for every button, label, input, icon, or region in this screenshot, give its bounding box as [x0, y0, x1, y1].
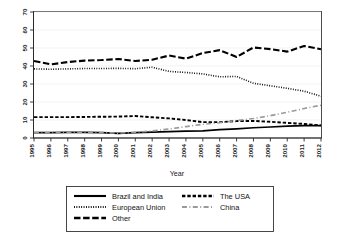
- x-tick-label: 2002: [146, 143, 153, 157]
- x-tick-label: 2008: [247, 143, 254, 157]
- x-tick-label: 2004: [180, 143, 187, 157]
- x-tick-label: 2000: [112, 143, 119, 157]
- y-tick-label: 10: [21, 116, 28, 123]
- x-tick-label: 2001: [129, 143, 136, 157]
- x-tick-label: 2005: [197, 143, 204, 157]
- legend-label: The USA: [220, 192, 250, 201]
- line-chart: 0 10 20 30 40 50 60 70 19951996199719981…: [0, 0, 340, 242]
- x-tick-label: 2010: [281, 143, 288, 157]
- x-tick-label: 2009: [264, 143, 271, 157]
- x-tick-label: 2003: [163, 143, 170, 157]
- legend-label: China: [220, 203, 240, 212]
- y-tick-label: 0: [21, 136, 28, 140]
- x-tick-label: 2007: [231, 143, 238, 157]
- legend-label: Other: [112, 214, 131, 223]
- y-tick-label: 70: [21, 8, 28, 15]
- x-tick-label: 1996: [45, 143, 52, 157]
- x-tick-label: 1999: [96, 143, 103, 157]
- x-tick-label: 2011: [298, 143, 305, 157]
- y-tick-label: 30: [21, 80, 28, 87]
- y-tick-label: 60: [21, 26, 28, 33]
- legend-label: Brazil and India: [112, 192, 164, 201]
- x-tick-label: 2012: [315, 143, 322, 157]
- x-axis-title: Year: [170, 169, 185, 178]
- x-tick-label: 1998: [79, 143, 86, 157]
- y-tick-label: 50: [21, 44, 28, 51]
- y-tick-label: 20: [21, 98, 28, 105]
- legend-label: European Union: [112, 203, 165, 212]
- x-tick-label: 1997: [62, 143, 69, 157]
- legend: Brazil and IndiaThe USAEuropean UnionChi…: [67, 187, 274, 232]
- x-tick-label: 2006: [214, 143, 221, 157]
- x-tick-label: 1995: [28, 143, 35, 157]
- y-tick-label: 40: [21, 62, 28, 69]
